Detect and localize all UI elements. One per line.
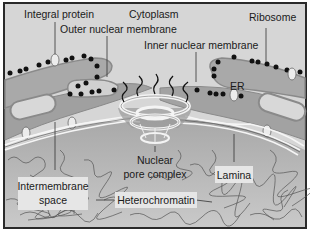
label-intermembrane-space-line2: space <box>39 194 67 206</box>
label-ribosome: Ribosome <box>249 11 296 23</box>
label-inner-nuclear-membrane: Inner nuclear membrane <box>144 39 259 51</box>
er-cisterna-left <box>68 80 118 97</box>
label-nuclear-pore-complex-line2: pore complex <box>123 168 187 180</box>
label-integral-protein: Integral protein <box>24 8 94 20</box>
label-heterochromatin: Heterochromatin <box>117 194 195 206</box>
label-lamina: Lamina <box>217 169 252 181</box>
label-cytoplasm: Cytoplasm <box>129 8 179 20</box>
diagram-canvas: Integral protein Cytoplasm Outer nuclear… <box>0 0 310 233</box>
nuclear-envelope-diagram: Integral protein Cytoplasm Outer nuclear… <box>0 0 310 233</box>
label-outer-nuclear-membrane: Outer nuclear membrane <box>60 23 177 35</box>
label-er: ER <box>230 80 245 92</box>
label-intermembrane-space-line1: Intermembrane <box>17 180 88 192</box>
label-nuclear-pore-complex-line1: Nuclear <box>137 154 174 166</box>
